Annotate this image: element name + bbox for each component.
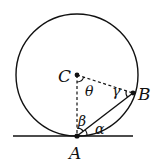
point-b	[131, 91, 136, 96]
label-alpha: α	[95, 121, 105, 137]
circle-geometry-diagram: C B A θ γ β α	[0, 0, 157, 166]
label-beta: β	[77, 113, 86, 129]
label-c: C	[58, 66, 71, 86]
gamma-arc	[126, 91, 127, 97]
theta-arc	[77, 77, 84, 82]
label-b: B	[137, 84, 151, 104]
point-c	[75, 73, 80, 78]
label-a: A	[67, 143, 81, 163]
label-theta: θ	[85, 83, 94, 99]
point-a	[74, 133, 79, 138]
label-gamma: γ	[112, 83, 121, 99]
